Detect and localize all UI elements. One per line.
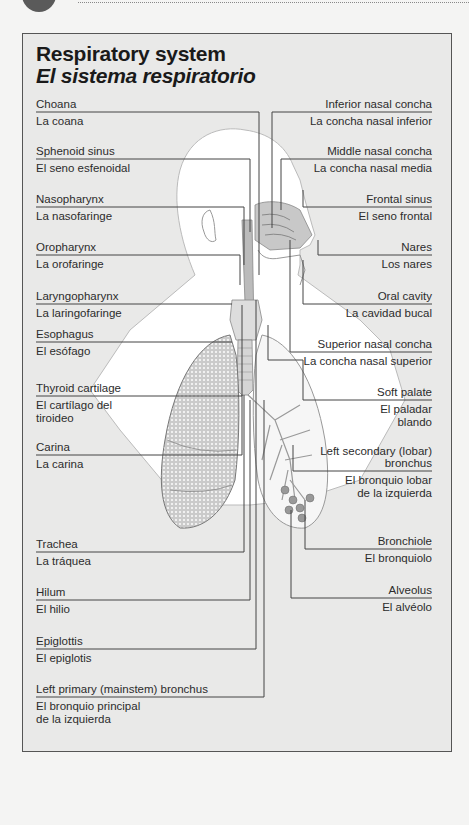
section-tab-marker (22, 0, 56, 12)
label-epiglottis-en: Epiglottis (36, 634, 83, 649)
label-alveolus-en: Alveolus (389, 583, 432, 598)
label-nares-en: Nares (401, 240, 432, 255)
label-left-primary-bronchus-en: Left primary (mainstem) bronchus (36, 682, 208, 697)
label-trachea-es: La tráquea (36, 554, 91, 569)
label-hilum-es: El hilio (36, 602, 70, 617)
label-alveolus-es: El alvéolo (382, 600, 432, 615)
label-trachea-en: Trachea (36, 537, 78, 552)
label-left-secondary-bronchus-en-2: bronchus (385, 456, 432, 471)
title-spanish: El sistema respiratorio (36, 65, 256, 87)
label-middle-nasal-concha-es: La concha nasal media (314, 161, 432, 176)
label-frontal-sinus-en: Frontal sinus (366, 192, 432, 207)
label-esophagus-en: Esophagus (36, 327, 94, 342)
header-dotted-rule (78, 2, 469, 3)
label-oral-cavity-es: La cavidad bucal (346, 306, 432, 321)
label-oropharynx-en: Oropharynx (36, 240, 96, 255)
label-oral-cavity-en: Oral cavity (378, 289, 432, 304)
label-esophagus-es: El esófago (36, 344, 90, 359)
label-choana-es: La coana (36, 114, 83, 129)
label-sphenoid-sinus-es: El seno esfenoidal (36, 161, 130, 176)
label-bronchiole-en: Bronchiole (378, 534, 432, 549)
label-laryngopharynx-en: Laryngopharynx (36, 289, 118, 304)
label-inferior-nasal-concha-en: Inferior nasal concha (325, 97, 432, 112)
title-english: Respiratory system (36, 42, 226, 65)
label-nasopharynx-es: La nasofaringe (36, 209, 112, 224)
label-thyroid-cartilage-en: Thyroid cartilage (36, 381, 121, 396)
label-soft-palate-es-2: blando (397, 415, 432, 430)
label-soft-palate-en: Soft palate (377, 385, 432, 400)
label-carina-es: La carina (36, 457, 83, 472)
label-middle-nasal-concha-en: Middle nasal concha (327, 144, 432, 159)
label-left-secondary-bronchus-es-2: de la izquierda (357, 486, 432, 501)
label-nares-es: Los nares (381, 257, 432, 272)
label-hilum-en: Hilum (36, 585, 65, 600)
label-bronchiole-es: El bronquiolo (365, 551, 432, 566)
label-nasopharynx-en: Nasopharynx (36, 192, 104, 207)
label-epiglottis-es: El epiglotis (36, 651, 92, 666)
label-thyroid-cartilage-es-2: tiroideo (36, 411, 74, 426)
label-left-primary-bronchus-es-2: de la izquierda (36, 712, 111, 727)
label-frontal-sinus-es: El seno frontal (358, 209, 432, 224)
label-superior-nasal-concha-en: Superior nasal concha (318, 337, 432, 352)
label-carina-en: Carina (36, 440, 70, 455)
page-title: Respiratory system El sistema respirator… (36, 43, 256, 87)
label-laryngopharynx-es: La laringofaringe (36, 306, 122, 321)
label-inferior-nasal-concha-es: La concha nasal inferior (310, 114, 432, 129)
label-choana-en: Choana (36, 97, 76, 112)
label-superior-nasal-concha-es: La concha nasal superior (304, 354, 433, 369)
label-sphenoid-sinus-en: Sphenoid sinus (36, 144, 115, 159)
label-oropharynx-es: La orofaringe (36, 257, 104, 272)
